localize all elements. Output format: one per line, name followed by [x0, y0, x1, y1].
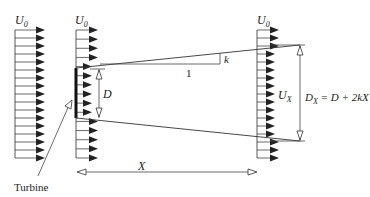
slope-run-label: 1: [186, 67, 192, 79]
velocity-arrowhead-icon: [36, 107, 45, 114]
velocity-arrowhead-icon: [89, 155, 98, 162]
velocity-arrowhead-icon: [89, 36, 98, 43]
velocity-arrowhead-icon: [36, 59, 45, 66]
velocity-arrowhead-icon: [270, 43, 279, 50]
wake-boundary-bottom: [76, 118, 300, 141]
velocity-arrowhead-icon: [36, 67, 45, 74]
turbine-pointer-line: [38, 103, 70, 176]
turbine-pointer-arrow-icon: [65, 100, 72, 109]
velocity-arrowhead-icon: [36, 91, 45, 98]
upstream-velocity-profile: [15, 27, 45, 162]
velocity-arrowhead-icon: [89, 118, 98, 125]
x-dimension-right-arrow-icon: [248, 169, 257, 175]
velocity-arrowhead-icon: [266, 131, 275, 138]
velocity-arrowhead-icon: [36, 115, 45, 122]
velocity-arrowhead-icon: [83, 91, 92, 98]
velocity-arrowhead-icon: [270, 139, 279, 146]
turbine-label: Turbine: [14, 181, 49, 193]
velocity-arrowhead-icon: [266, 67, 275, 74]
u0-rotor-label: U0: [75, 13, 88, 29]
dx-dimension-top-arrow-icon: [297, 46, 303, 55]
velocity-arrowhead-icon: [89, 127, 98, 134]
velocity-arrowhead-icon: [36, 155, 45, 162]
velocity-arrowhead-icon: [266, 75, 275, 82]
x-label: X: [137, 159, 146, 173]
ux-label: UX: [278, 88, 293, 104]
slope-rise-label: k: [224, 53, 230, 65]
velocity-arrowhead-icon: [266, 51, 275, 58]
velocity-arrowhead-icon: [36, 99, 45, 106]
velocity-arrowhead-icon: [36, 131, 45, 138]
velocity-arrowhead-icon: [36, 27, 45, 34]
velocity-arrowhead-icon: [36, 51, 45, 58]
velocity-arrowhead-icon: [89, 45, 98, 52]
velocity-arrowhead-icon: [270, 147, 279, 154]
velocity-arrowhead-icon: [83, 100, 92, 107]
velocity-arrowhead-icon: [266, 123, 275, 130]
velocity-arrowhead-icon: [89, 54, 98, 61]
d-label: D: [102, 87, 112, 101]
velocity-arrowhead-icon: [89, 145, 98, 152]
velocity-arrowhead-icon: [270, 155, 279, 162]
rotor-velocity-profile: [76, 27, 98, 162]
velocity-arrowhead-icon: [36, 43, 45, 50]
velocity-arrowhead-icon: [36, 123, 45, 130]
velocity-arrowhead-icon: [270, 27, 279, 34]
velocity-arrowhead-icon: [36, 147, 45, 154]
velocity-arrowhead-icon: [36, 83, 45, 90]
wake-diagram: 1 k D DX = D + 2kX X Turbine U0 U0 U0 UX: [0, 0, 370, 197]
velocity-arrowhead-icon: [266, 99, 275, 106]
d-dimension-bottom-arrow-icon: [96, 108, 102, 117]
velocity-arrowhead-icon: [266, 59, 275, 66]
velocity-arrowhead-icon: [266, 83, 275, 90]
velocity-arrowhead-icon: [83, 109, 92, 116]
velocity-arrowhead-icon: [89, 27, 98, 34]
u0-upstream-label: U0: [15, 13, 28, 29]
velocity-arrowhead-icon: [83, 72, 92, 79]
dx-equation: DX = D + 2kX: [304, 91, 370, 106]
x-dimension-left-arrow-icon: [77, 169, 86, 175]
velocity-arrowhead-icon: [270, 35, 279, 42]
velocity-arrowhead-icon: [36, 75, 45, 82]
velocity-arrowhead-icon: [83, 81, 92, 88]
d-dimension-top-arrow-icon: [96, 70, 102, 79]
velocity-arrowhead-icon: [266, 91, 275, 98]
velocity-arrowhead-icon: [36, 139, 45, 146]
velocity-arrowhead-icon: [89, 136, 98, 143]
velocity-arrowhead-icon: [36, 35, 45, 42]
dx-dimension-bottom-arrow-icon: [297, 131, 303, 140]
velocity-arrowhead-icon: [266, 115, 275, 122]
velocity-arrowhead-icon: [266, 107, 275, 114]
u0-downstream-label: U0: [257, 13, 270, 29]
